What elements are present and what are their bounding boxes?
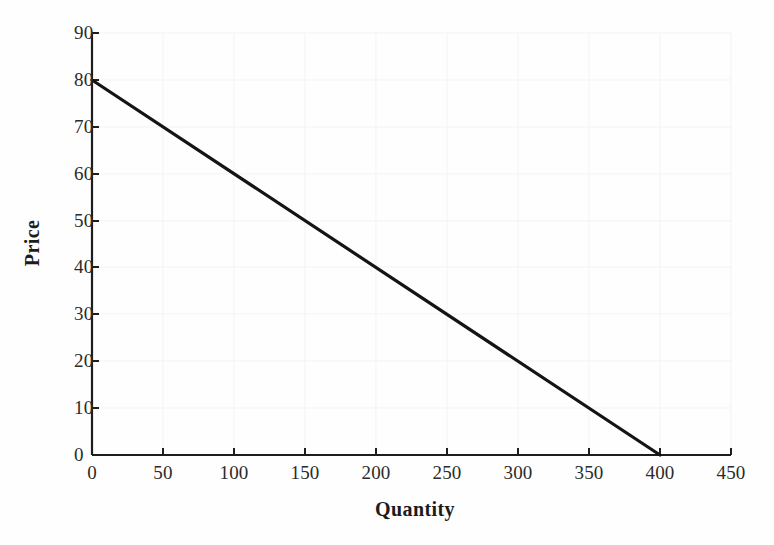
x-tick-label: 450 <box>716 462 745 484</box>
y-tick-label: 90 <box>74 22 93 44</box>
y-tick-label: 20 <box>74 350 93 372</box>
y-tick-label: 40 <box>74 256 93 278</box>
y-tick-label: 30 <box>74 303 93 325</box>
y-tick-label: 10 <box>74 397 93 419</box>
x-tick-label: 100 <box>219 462 248 484</box>
x-tick-label: 50 <box>153 462 172 484</box>
y-tick-label: 80 <box>74 69 93 91</box>
y-tick-label: 0 <box>74 444 84 466</box>
grid-vertical <box>92 33 731 455</box>
x-tick-label: 350 <box>574 462 603 484</box>
y-tick-label: 50 <box>74 210 93 232</box>
y-tick-label: 60 <box>74 163 93 185</box>
chart-figure: 90 80 70 60 50 40 30 20 10 0 0 50 100 15… <box>0 0 774 545</box>
x-tick-label: 200 <box>361 462 390 484</box>
x-axis-title: Quantity <box>375 498 455 521</box>
x-tick-label: 300 <box>503 462 532 484</box>
y-axis-title: Price <box>21 220 44 266</box>
x-tick-label: 150 <box>290 462 319 484</box>
grid-horizontal <box>92 33 731 455</box>
x-tick-label: 0 <box>87 462 97 484</box>
x-tick-label: 250 <box>432 462 461 484</box>
y-tick-label: 70 <box>74 116 93 138</box>
x-tick-label: 400 <box>645 462 674 484</box>
